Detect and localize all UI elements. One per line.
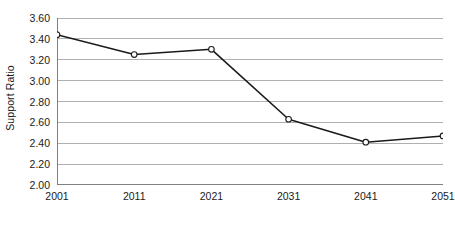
y-tick-label-2.20: 2.20 (30, 158, 50, 170)
y-tick-label-3.20: 3.20 (30, 54, 50, 66)
y-tick-label-2.60: 2.60 (30, 116, 50, 128)
data-point-2041 (363, 139, 369, 145)
y-axis-title-label: Support Ratio (4, 65, 16, 131)
y-tick-label-2.40: 2.40 (30, 137, 50, 149)
data-point-2031 (286, 116, 292, 122)
y-axis-title: Support Ratio (0, 0, 20, 195)
y-tick-label-2.80: 2.80 (30, 96, 50, 108)
data-series-line (57, 35, 443, 143)
y-tick-label-3.40: 3.40 (30, 33, 50, 45)
data-point-2051 (440, 133, 443, 139)
x-axis-tick-labels: 200120112021203120412051 (57, 190, 443, 210)
x-tick-label-2051: 2051 (431, 190, 454, 202)
x-tick-label-2041: 2041 (354, 190, 377, 202)
chart-plot-svg (57, 18, 443, 185)
x-tick-label-2031: 2031 (277, 190, 300, 202)
y-tick-label-3.00: 3.00 (30, 75, 50, 87)
gridlines (57, 18, 443, 164)
data-point-2011 (131, 52, 137, 58)
y-tick-label-3.60: 3.60 (30, 12, 50, 24)
plot-area (57, 18, 443, 185)
y-axis-tick-labels: 2.002.202.402.602.803.003.203.403.60 (20, 0, 54, 195)
x-tick-label-2021: 2021 (200, 190, 223, 202)
data-point-2001 (57, 32, 60, 38)
series-line-support-ratio (57, 35, 443, 143)
x-tick-label-2011: 2011 (123, 190, 146, 202)
data-point-2021 (209, 47, 215, 53)
x-tick-label-2001: 2001 (45, 190, 68, 202)
